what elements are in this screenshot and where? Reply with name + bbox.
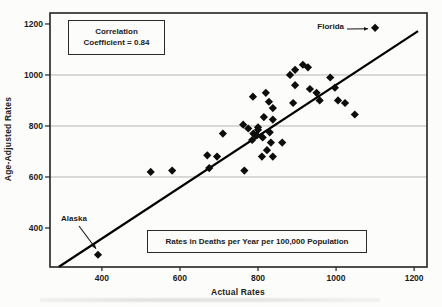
data-point	[213, 152, 221, 160]
y-tick-label: 1200	[24, 19, 43, 29]
florida-arrow-head	[364, 27, 368, 31]
correlation-label-line2: Coefficient = 0.84	[83, 38, 149, 49]
data-point	[262, 89, 270, 97]
data-point	[286, 71, 294, 79]
correlation-annotation-box: Correlation Coefficient = 0.84	[68, 20, 165, 55]
x-tick-label: 1000	[327, 273, 346, 283]
correlation-label-line1: Correlation	[95, 27, 138, 38]
data-point-alaska	[94, 251, 102, 259]
data-point	[306, 85, 314, 93]
y-tick-label: 600	[29, 172, 43, 182]
data-point	[203, 151, 211, 159]
data-point	[267, 138, 275, 146]
y-tick-label: 1000	[24, 70, 43, 80]
data-point	[269, 115, 277, 123]
florida-point-label: Florida	[310, 22, 344, 31]
data-point	[291, 66, 299, 74]
scatter-chart: 4006008001000120040060080010001200 Age-A…	[0, 0, 442, 307]
alaska-point-label: Alaska	[58, 214, 90, 223]
data-point	[334, 96, 342, 104]
x-tick-label: 600	[173, 273, 187, 283]
data-point	[258, 152, 266, 160]
data-point	[291, 81, 299, 89]
y-tick-label: 800	[29, 121, 43, 131]
data-point	[351, 110, 359, 118]
data-point	[147, 168, 155, 176]
units-annotation-box: Rates in Deaths per Year per 100,000 Pop…	[147, 230, 367, 253]
data-point	[265, 98, 273, 106]
data-point	[289, 99, 297, 107]
x-tick-label: 1200	[405, 273, 424, 283]
data-point-florida	[371, 24, 379, 32]
y-tick-label: 400	[29, 223, 43, 233]
x-tick-label: 400	[95, 273, 109, 283]
data-point	[269, 104, 277, 112]
data-point	[260, 113, 268, 121]
data-point	[278, 138, 286, 146]
data-point	[269, 152, 277, 160]
x-axis-title: Actual Rates	[178, 287, 298, 297]
data-point	[168, 167, 176, 175]
alaska-arrow	[79, 226, 96, 249]
data-point	[240, 167, 248, 175]
plot-area: 4006008001000120040060080010001200	[0, 0, 442, 307]
x-tick-label: 800	[251, 273, 265, 283]
data-point	[263, 146, 271, 154]
y-axis-title: Age-Adjusted Rates	[3, 69, 13, 209]
data-point	[219, 130, 227, 138]
data-point	[341, 99, 349, 107]
data-point	[249, 93, 257, 101]
